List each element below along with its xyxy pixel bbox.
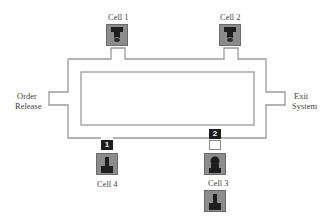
order-release-label-line1: Order bbox=[17, 91, 37, 101]
queue-badge-2: 2 bbox=[209, 129, 221, 139]
cell-1-station[interactable] bbox=[106, 24, 128, 46]
empty-queue-slot bbox=[209, 140, 221, 150]
queue-badge-1: 1 bbox=[101, 140, 113, 150]
machine-tool-bottom-icon bbox=[97, 154, 117, 174]
cell-1-label: Cell 1 bbox=[108, 12, 129, 22]
cell-4-label: Cell 4 bbox=[97, 179, 118, 189]
cell-3-label: Cell 3 bbox=[208, 178, 229, 188]
worker-icon bbox=[205, 154, 225, 174]
cell-3-station[interactable] bbox=[204, 153, 226, 175]
order-release-label-line2: Release bbox=[15, 101, 41, 111]
cell-2-station[interactable] bbox=[219, 24, 241, 46]
machine-tool-bottom-icon bbox=[205, 191, 225, 211]
machine-tool-top-icon bbox=[220, 25, 240, 45]
cell-4-station[interactable] bbox=[96, 153, 118, 175]
cell-3-machine[interactable] bbox=[204, 190, 226, 212]
machine-tool-top-icon bbox=[107, 25, 127, 45]
cell-2-label: Cell 2 bbox=[220, 12, 241, 22]
exit-system-label-line1: Exit bbox=[294, 91, 308, 101]
conveyor-loop bbox=[0, 0, 333, 223]
exit-system-label-line2: System bbox=[292, 101, 317, 111]
